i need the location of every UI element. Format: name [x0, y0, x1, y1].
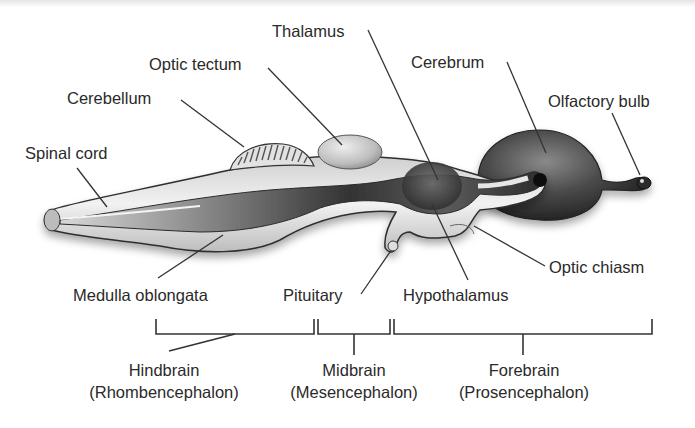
division-midbrain-latin: (Mesencephalon)	[274, 381, 434, 403]
division-hindbrain-name: Hindbrain	[72, 359, 256, 381]
division-hindbrain-latin: (Rhombencephalon)	[72, 381, 256, 403]
label-cerebellum: Cerebellum	[67, 90, 151, 107]
brain-body	[44, 156, 547, 252]
division-hindbrain: Hindbrain (Rhombencephalon)	[72, 359, 256, 403]
division-forebrain-latin: (Prosencephalon)	[444, 381, 604, 403]
label-pituitary: Pituitary	[283, 287, 343, 304]
label-optic-chiasm: Optic chiasm	[549, 259, 644, 276]
label-medulla-oblongata: Medulla oblongata	[73, 287, 208, 304]
brain-diagram: Thalamus Optic tectum Cerebrum Cerebellu…	[0, 0, 695, 428]
label-thalamus: Thalamus	[272, 23, 344, 40]
division-midbrain: Midbrain (Mesencephalon)	[274, 359, 434, 403]
division-brackets	[156, 319, 652, 355]
division-forebrain: Forebrain (Prosencephalon)	[444, 359, 604, 403]
optic-tectum-shape	[318, 135, 382, 169]
label-cerebrum: Cerebrum	[411, 54, 484, 71]
label-hypothalamus: Hypothalamus	[403, 287, 508, 304]
division-midbrain-name: Midbrain	[274, 359, 434, 381]
label-spinal-cord: Spinal cord	[25, 145, 108, 162]
division-forebrain-name: Forebrain	[444, 359, 604, 381]
label-optic-tectum: Optic tectum	[149, 56, 242, 73]
label-olfactory-bulb: Olfactory bulb	[548, 93, 650, 110]
